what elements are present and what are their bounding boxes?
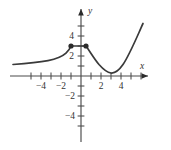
x-tick-label--4: −4 [36, 81, 46, 91]
closed-point-left [68, 43, 73, 48]
x-tick-label--2: −2 [56, 81, 66, 91]
graph-figure: −4 −2 2 4 4 2 −2 −4 x y [0, 0, 171, 150]
coordinate-plane-svg: −4 −2 2 4 4 2 −2 −4 x y [0, 0, 171, 150]
y-axis-label: y [87, 6, 93, 16]
y-tick-label-4: 4 [69, 31, 74, 41]
y-axis-arrowhead [78, 9, 84, 16]
y-tick-label-2: 2 [69, 51, 74, 61]
closed-point-right [83, 43, 88, 48]
x-tick-label-4: 4 [119, 81, 124, 91]
y-tick-label--2: −2 [65, 91, 75, 101]
y-tick-label--4: −4 [65, 111, 75, 121]
left-branch-path [13, 46, 71, 65]
x-tick-label-2: 2 [99, 81, 104, 91]
x-axis-arrowhead [142, 73, 149, 79]
x-axis-label: x [139, 61, 145, 71]
right-branch-path [86, 24, 143, 74]
